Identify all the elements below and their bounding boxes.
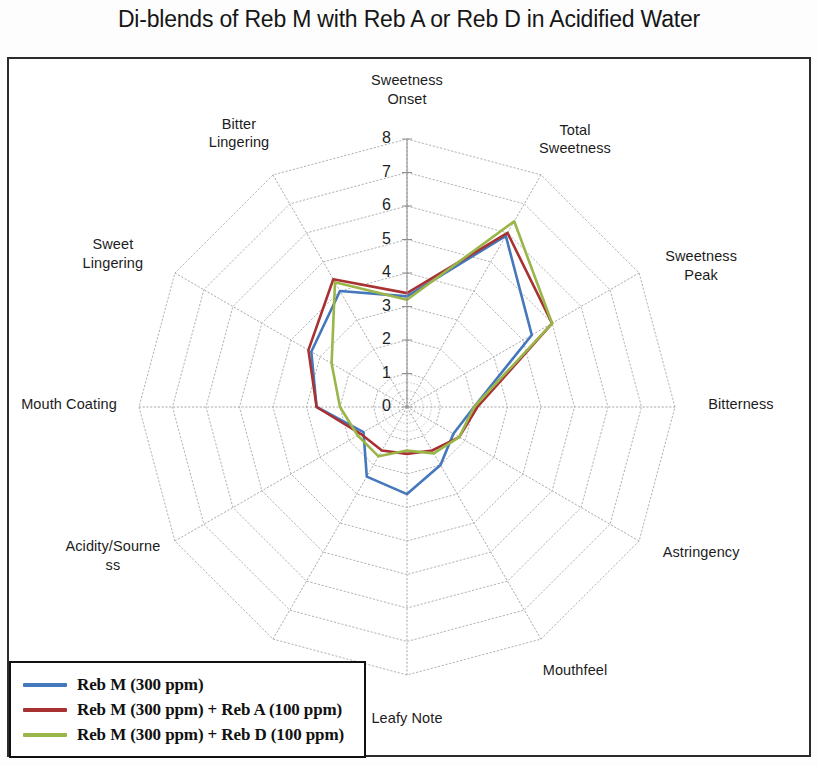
legend: Reb M (300 ppm)Reb M (300 ppm) + Reb A (… xyxy=(9,661,366,758)
radar-series xyxy=(308,221,552,494)
legend-color-swatch xyxy=(23,683,67,687)
axis-label-leafy-note: Leafy Note xyxy=(352,709,462,728)
radial-tick-label: 1 xyxy=(369,364,391,382)
legend-color-swatch xyxy=(23,708,67,712)
radial-tick-label: 3 xyxy=(369,297,391,315)
axis-label-sweetness-peak: Sweetness Peak xyxy=(646,247,756,284)
legend-item[interactable]: Reb M (300 ppm) + Reb A (100 ppm) xyxy=(19,697,356,722)
axis-label-mouth-coating: Mouth Coating xyxy=(9,395,129,414)
legend-item[interactable]: Reb M (300 ppm) + Reb D (100 ppm) xyxy=(19,722,356,747)
radial-axis xyxy=(402,139,412,407)
legend-label: Reb M (300 ppm) xyxy=(77,675,203,695)
axis-label-sweet-lingering: Sweet Lingering xyxy=(58,235,168,272)
radial-tick-label: 0 xyxy=(369,397,391,415)
series-polygon xyxy=(311,236,532,494)
axis-label-total-sweetness: Total Sweetness xyxy=(520,121,630,158)
axis-label-mouthfeel: Mouthfeel xyxy=(520,661,630,680)
legend-color-swatch xyxy=(23,733,67,737)
axis-label-astringency: Astringency xyxy=(646,543,756,562)
radial-tick-label: 6 xyxy=(369,196,391,214)
axis-label-sweetness-onset: Sweetness Onset xyxy=(352,71,462,108)
page-title: Di-blends of Reb M with Reb A or Reb D i… xyxy=(0,6,818,33)
axis-label-bitterness: Bitterness xyxy=(686,395,796,414)
axis-label-acidity-sourness: Acidity/Sourne ss xyxy=(57,537,169,574)
radial-tick-label: 7 xyxy=(369,163,391,181)
radial-tick-label: 4 xyxy=(369,263,391,281)
axis-label-bitter-lingering: Bitter Lingering xyxy=(184,115,294,152)
chart-page: Di-blends of Reb M with Reb A or Reb D i… xyxy=(0,0,818,766)
radial-tick-label: 2 xyxy=(369,330,391,348)
plot-area: Sweetness OnsetTotal SweetnessSweetness … xyxy=(7,57,811,757)
legend-label: Reb M (300 ppm) + Reb D (100 ppm) xyxy=(77,725,344,745)
radial-tick-label: 5 xyxy=(369,230,391,248)
legend-item[interactable]: Reb M (300 ppm) xyxy=(19,672,356,697)
radial-tick-label: 8 xyxy=(369,129,391,147)
legend-label: Reb M (300 ppm) + Reb A (100 ppm) xyxy=(77,700,342,720)
